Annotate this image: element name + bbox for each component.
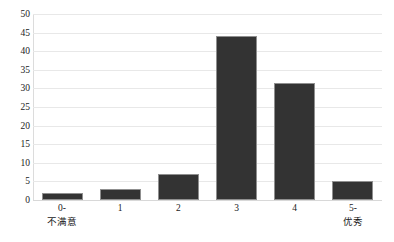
x-tick-label: 2 xyxy=(149,202,207,215)
bar-slot xyxy=(216,14,257,200)
gridline-30 xyxy=(33,88,382,89)
bar xyxy=(158,174,199,200)
gridline-50 xyxy=(33,14,382,15)
gridline-5 xyxy=(33,181,382,182)
gridline-35 xyxy=(33,70,382,71)
bar-slot xyxy=(42,14,83,200)
x-tick-sublabel: 优秀 xyxy=(324,215,382,229)
bar xyxy=(42,193,83,200)
bar xyxy=(216,36,257,200)
y-tick-label: 25 xyxy=(2,102,30,112)
bar-slot xyxy=(332,14,373,200)
x-tick-sublabel: 不满意 xyxy=(33,215,91,229)
bar xyxy=(332,181,373,200)
gridline-10 xyxy=(33,163,382,164)
y-tick-label: 10 xyxy=(2,158,30,168)
y-tick-label: 30 xyxy=(2,83,30,93)
x-tick-label: 0- xyxy=(33,202,91,215)
x-tick-group: 0-不满意 xyxy=(33,202,91,229)
gridline-0 xyxy=(33,200,382,201)
gridline-25 xyxy=(33,107,382,108)
x-tick-group: 4 xyxy=(266,202,324,215)
x-tick-group: 5-优秀 xyxy=(324,202,382,229)
gridline-40 xyxy=(33,51,382,52)
y-tick-label: 45 xyxy=(2,28,30,38)
x-tick-label: 5- xyxy=(324,202,382,215)
x-tick-group: 3 xyxy=(208,202,266,215)
bar xyxy=(100,189,141,200)
x-tick-label: 4 xyxy=(266,202,324,215)
x-tick-label: 1 xyxy=(91,202,149,215)
y-tick-label: 5 xyxy=(2,176,30,186)
y-tick-label: 20 xyxy=(2,121,30,131)
plot-area xyxy=(33,14,382,200)
y-tick-label: 15 xyxy=(2,139,30,149)
bar-slot xyxy=(158,14,199,200)
bar-slot xyxy=(274,14,315,200)
x-tick-group: 2 xyxy=(149,202,207,215)
y-tick-label: 50 xyxy=(2,9,30,19)
y-axis-tick-labels: 50454035302520151050 xyxy=(0,0,30,242)
x-tick-group: 1 xyxy=(91,202,149,215)
gridline-45 xyxy=(33,33,382,34)
y-tick-label: 0 xyxy=(2,195,30,205)
gridline-20 xyxy=(33,126,382,127)
y-tick-label: 40 xyxy=(2,46,30,56)
bar xyxy=(274,83,315,200)
y-tick-label: 35 xyxy=(2,65,30,75)
x-tick-label: 3 xyxy=(208,202,266,215)
bar-chart: 50454035302520151050 0-不满意12345-优秀 xyxy=(0,0,394,242)
gridline-15 xyxy=(33,144,382,145)
bar-slot xyxy=(100,14,141,200)
x-axis-tick-labels: 0-不满意12345-优秀 xyxy=(33,202,382,242)
